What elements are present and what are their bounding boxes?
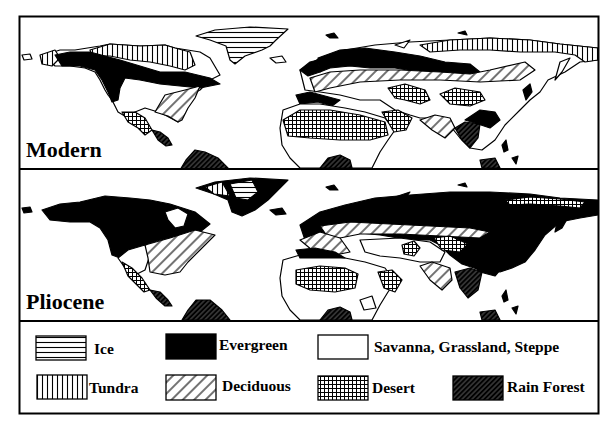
- deciduous-swatch: [166, 375, 216, 400]
- pliocene-island: [458, 183, 467, 187]
- modern-deciduous-india: [420, 115, 455, 138]
- legend-label-deciduous: Deciduous: [222, 377, 291, 394]
- pliocene-island: [502, 290, 508, 302]
- pliocene-rainforest-south-america: [182, 300, 230, 320]
- legend-item-ice: Ice: [36, 336, 114, 360]
- modern-island: [458, 31, 467, 35]
- modern-map-panel: [22, 27, 598, 170]
- panel-label-pliocene: Pliocene: [26, 289, 104, 314]
- modern-rainforest-central-america: [152, 130, 172, 146]
- pliocene-deciduous-india: [420, 262, 452, 290]
- pliocene-island: [22, 207, 32, 213]
- legend: Ice Evergreen Savanna, Grassland, Steppe…: [36, 334, 585, 400]
- pliocene-island: [512, 306, 518, 314]
- legend-label-tundra: Tundra: [89, 379, 139, 396]
- modern-iceland: [270, 56, 286, 63]
- pliocene-rainforest-indonesia: [480, 310, 500, 320]
- legend-item-rainforest: Rain Forest: [453, 376, 585, 400]
- pliocene-rainforest-se-asia: [455, 268, 482, 298]
- ice-swatch: [36, 336, 86, 360]
- tundra-swatch: [37, 375, 87, 399]
- legend-item-tundra: Tundra: [37, 375, 139, 399]
- evergreen-swatch: [166, 334, 216, 359]
- pliocene-island: [326, 185, 338, 190]
- legend-item-evergreen: Evergreen: [166, 334, 288, 359]
- pliocene-map-panel: [22, 178, 598, 320]
- legend-label-desert: Desert: [372, 379, 416, 396]
- legend-label-savanna: Savanna, Grassland, Steppe: [374, 338, 559, 355]
- panel-label-modern: Modern: [26, 137, 102, 162]
- legend-item-desert: Desert: [318, 376, 416, 400]
- modern-rainforest-indonesia: [480, 158, 500, 168]
- modern-island: [502, 140, 508, 152]
- pliocene-iceland: [270, 208, 286, 215]
- legend-item-deciduous: Deciduous: [166, 375, 291, 400]
- modern-island: [326, 33, 338, 38]
- vegetation-map-figure: Modern Pliocene Ice Evergreen Savanna, G…: [0, 0, 615, 432]
- legend-label-ice: Ice: [94, 340, 114, 357]
- legend-item-savanna: Savanna, Grassland, Steppe: [318, 335, 559, 359]
- pliocene-desert-sahara: [296, 266, 358, 292]
- rainforest-swatch: [453, 376, 503, 400]
- modern-rainforest-south-america: [180, 150, 230, 170]
- legend-label-rainforest: Rain Forest: [507, 378, 585, 395]
- desert-swatch: [318, 376, 368, 400]
- pliocene-rainforest-central-america: [150, 290, 172, 306]
- modern-island: [512, 156, 518, 164]
- legend-label-evergreen: Evergreen: [219, 336, 288, 353]
- modern-desert-mexico: [122, 112, 152, 135]
- savanna-swatch: [318, 335, 368, 359]
- modern-island: [22, 54, 32, 60]
